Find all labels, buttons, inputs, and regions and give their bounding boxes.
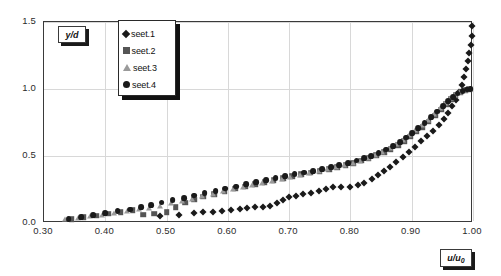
gridline-horizontal [44, 22, 471, 23]
data-point-seet.4 [422, 120, 428, 126]
data-point-seet.4 [115, 209, 121, 215]
data-point-seet.4 [181, 195, 187, 201]
data-point-seet.1 [330, 184, 337, 191]
gridline-vertical [105, 22, 106, 221]
legend: seet.1seet.2seet.3seet.4 [118, 20, 176, 96]
data-point-seet.2 [152, 211, 158, 217]
x-tick-label: 0.90 [391, 225, 431, 236]
data-point-seet.1 [440, 116, 447, 123]
data-point-seet.4 [383, 147, 389, 153]
legend-item-seet.2[interactable]: seet.2 [123, 42, 175, 59]
y-tick-label: 0.0 [6, 216, 36, 227]
data-point-seet.4 [159, 200, 165, 206]
data-point-seet.1 [307, 189, 314, 196]
data-point-seet.1 [469, 22, 476, 29]
data-point-seet.4 [243, 182, 249, 188]
gridline-vertical [228, 22, 229, 221]
data-point-seet.4 [319, 166, 325, 172]
gridline-horizontal [44, 89, 471, 90]
data-point-seet.4 [440, 103, 446, 109]
data-point-seet.4 [416, 125, 422, 131]
data-point-seet.4 [66, 216, 72, 222]
data-point-seet.1 [260, 203, 267, 210]
data-point-seet.4 [292, 172, 298, 178]
data-point-seet.1 [191, 209, 198, 216]
data-point-seet.4 [90, 212, 96, 218]
data-point-seet.4 [328, 164, 334, 170]
legend-item-seet.1[interactable]: seet.1 [123, 25, 175, 42]
x-axis-label-text: u/u0 [447, 253, 464, 264]
data-point-seet.1 [436, 121, 443, 128]
diamond-marker-icon [122, 29, 130, 37]
data-point-seet.1 [465, 57, 472, 64]
y-axis-label-text: y/d [65, 30, 78, 40]
chart-root: 0.300.400.500.600.700.800.901.00 0.00.51… [0, 0, 501, 276]
data-point-seet.1 [237, 205, 244, 212]
data-point-seet.4 [283, 173, 289, 179]
plot-area [43, 21, 472, 222]
data-point-seet.4 [253, 179, 259, 185]
legend-item-seet.3[interactable]: seet.3 [123, 59, 175, 76]
data-point-seet.1 [360, 179, 367, 186]
data-point-seet.4 [434, 109, 440, 115]
circle-marker-icon [123, 81, 130, 88]
y-tick-label: 1.0 [6, 82, 36, 93]
x-tick-label: 0.80 [329, 225, 369, 236]
data-point-seet.1 [461, 73, 468, 80]
data-point-seet.4 [361, 155, 367, 161]
data-point-seet.1 [449, 103, 456, 110]
data-point-seet.4 [354, 158, 360, 164]
data-point-seet.1 [387, 163, 394, 170]
legend-label: seet.1 [131, 29, 155, 39]
data-point-seet.1 [315, 187, 322, 194]
x-tick-label: 1.00 [452, 225, 492, 236]
data-point-seet.4 [191, 193, 197, 199]
data-point-seet.4 [397, 139, 403, 145]
data-point-seet.4 [376, 150, 382, 156]
data-point-seet.1 [399, 154, 406, 161]
data-point-seet.1 [393, 158, 400, 165]
data-point-seet.4 [127, 207, 133, 213]
data-point-seet.1 [463, 65, 470, 72]
data-point-seet.2 [140, 212, 146, 218]
data-point-seet.1 [423, 132, 430, 139]
data-point-seet.4 [468, 86, 474, 92]
data-point-seet.4 [202, 190, 208, 196]
data-point-seet.4 [233, 184, 239, 190]
gridline-vertical [350, 22, 351, 221]
data-point-seet.4 [428, 114, 434, 120]
data-point-seet.4 [403, 135, 409, 141]
data-point-seet.4 [409, 130, 415, 136]
data-point-seet.4 [310, 168, 316, 174]
x-tick-label: 0.70 [268, 225, 308, 236]
legend-label: seet.3 [133, 63, 157, 73]
data-point-seet.1 [368, 175, 375, 182]
gridline-vertical [473, 22, 474, 221]
data-point-seet.4 [390, 143, 396, 149]
data-point-seet.1 [430, 127, 437, 134]
data-point-seet.4 [222, 186, 228, 192]
data-point-seet.4 [213, 188, 219, 194]
x-tick-label: 0.40 [84, 225, 124, 236]
data-point-seet.1 [338, 183, 345, 190]
y-tick-label: 0.5 [6, 149, 36, 160]
legend-item-seet.4[interactable]: seet.4 [123, 76, 175, 93]
x-axis-label: u/u0 [440, 249, 472, 267]
data-point-seet.2 [164, 209, 170, 215]
gridline-vertical [289, 22, 290, 221]
y-tick-label: 1.5 [6, 15, 36, 26]
data-point-seet.1 [468, 33, 475, 40]
data-point-seet.1 [244, 204, 251, 211]
x-tick-label: 0.50 [146, 225, 186, 236]
legend-label: seet.4 [132, 80, 156, 90]
data-point-seet.1 [417, 138, 424, 145]
data-point-seet.4 [273, 175, 279, 181]
square-marker-icon [123, 47, 130, 54]
data-point-seet.4 [301, 170, 307, 176]
data-point-seet.4 [345, 160, 351, 166]
data-point-seet.1 [466, 49, 473, 56]
data-point-seet.4 [78, 214, 84, 220]
data-point-seet.1 [299, 191, 306, 198]
data-point-seet.1 [374, 171, 381, 178]
data-point-seet.1 [175, 211, 182, 218]
